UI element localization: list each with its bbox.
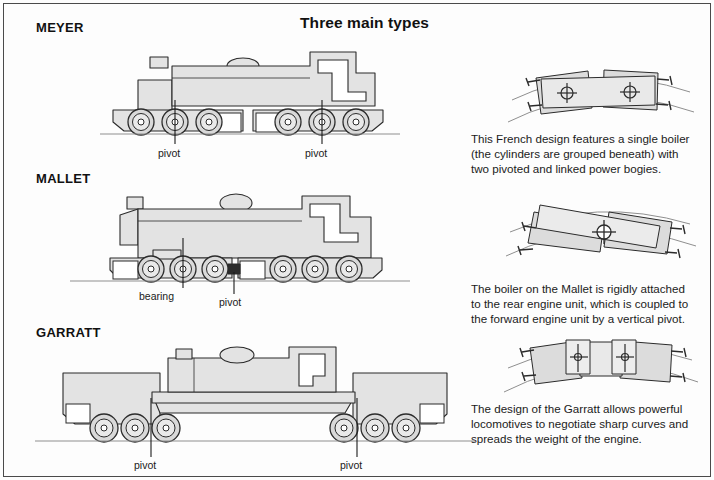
garratt-plan-cradle bbox=[578, 342, 624, 376]
meyer-cab-window bbox=[318, 60, 366, 101]
garratt-pivot-label-front: pivot bbox=[134, 459, 156, 471]
garratt-chimney bbox=[176, 349, 192, 359]
garratt-boiler bbox=[168, 347, 336, 392]
type-label-meyer: MEYER bbox=[36, 20, 84, 35]
mallet-front-box bbox=[113, 261, 138, 279]
garratt-front-tank bbox=[63, 373, 160, 424]
caption-meyer: This French design features a single boi… bbox=[471, 131, 694, 177]
caption-garratt: The design of the Garratt allows powerfu… bbox=[471, 401, 694, 447]
mallet-bearing-label: bearing bbox=[139, 290, 174, 302]
mallet-pivot-label: pivot bbox=[219, 296, 241, 308]
diagram-page: Three main types MEYER MALLET GARRATT Th… bbox=[0, 0, 714, 480]
meyer-body bbox=[172, 52, 375, 106]
mallet-plan-boiler bbox=[536, 205, 660, 248]
mallet-body bbox=[138, 196, 371, 258]
garratt-cradle-beam bbox=[155, 401, 352, 413]
page-title: Three main types bbox=[300, 14, 429, 32]
meyer-plan-pivot-rear bbox=[620, 82, 640, 102]
meyer-plan-front-bogie bbox=[536, 71, 592, 114]
meyer-pivot-label-front: pivot bbox=[158, 147, 180, 159]
garratt-plan-pivot-front bbox=[570, 344, 588, 372]
garratt-rear-bunker bbox=[353, 373, 447, 424]
meyer-front-bogie-box bbox=[216, 113, 241, 132]
meyer-front-bogie-frame bbox=[113, 110, 243, 131]
mallet-plan-rear-unit bbox=[604, 212, 672, 254]
meyer-plan-axles bbox=[526, 76, 672, 111]
garratt-frame-deck bbox=[152, 392, 355, 403]
caption-mallet: The boiler on the Mallet is rigidly atta… bbox=[471, 281, 694, 327]
meyer-plan-rear-bogie bbox=[603, 70, 658, 110]
meyer-dome bbox=[227, 58, 259, 74]
meyer-front-skirt bbox=[138, 80, 172, 117]
garratt-plan-rear-unit bbox=[620, 341, 672, 382]
garratt-dome bbox=[220, 347, 254, 363]
garratt-plan-axles bbox=[520, 348, 686, 382]
meyer-plan-frame bbox=[541, 76, 655, 108]
mallet-smokebox bbox=[120, 209, 138, 245]
mallet-bearing-block bbox=[153, 250, 181, 259]
garratt-plan-rear-pivot-box bbox=[612, 340, 636, 374]
mallet-cab-window bbox=[310, 204, 358, 242]
mallet-pivot-joint bbox=[228, 264, 240, 274]
mallet-wheels bbox=[138, 256, 362, 282]
mallet-chimney bbox=[127, 197, 143, 209]
garratt-cab-window bbox=[299, 354, 325, 386]
garratt-pivot-label-rear: pivot bbox=[340, 459, 362, 471]
type-label-garratt: GARRATT bbox=[36, 325, 101, 340]
mallet-rear-box bbox=[240, 261, 265, 279]
meyer-rear-bogie-frame bbox=[253, 110, 383, 131]
garratt-plan-front-pivot-box bbox=[566, 340, 590, 374]
garratt-rear-box bbox=[420, 404, 444, 423]
meyer-wheels bbox=[128, 109, 369, 135]
garratt-wheels bbox=[90, 414, 420, 442]
meyer-plan-pivot-front bbox=[557, 83, 577, 103]
garratt-plan-pivot-rear bbox=[616, 344, 634, 372]
meyer-chimney bbox=[150, 57, 168, 68]
meyer-pivot-label-rear: pivot bbox=[305, 147, 327, 159]
garratt-front-box bbox=[66, 404, 90, 423]
type-label-mallet: MALLET bbox=[36, 171, 91, 186]
mallet-rear-engine-frame bbox=[238, 258, 382, 278]
mallet-front-engine-frame bbox=[110, 258, 232, 278]
mallet-plan-axles bbox=[518, 222, 685, 258]
mallet-dome bbox=[220, 194, 252, 212]
mallet-plan-pivot-center bbox=[592, 220, 616, 244]
mallet-plan-front-unit bbox=[528, 212, 604, 252]
meyer-rear-bogie-box bbox=[256, 113, 281, 132]
garratt-plan-front-unit bbox=[530, 341, 582, 384]
